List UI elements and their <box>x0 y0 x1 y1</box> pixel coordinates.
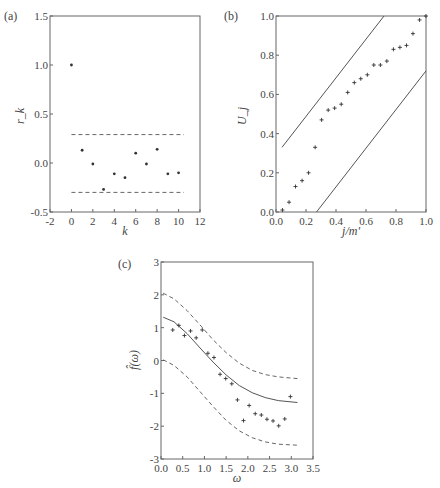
data-point <box>212 356 216 360</box>
data-point <box>365 73 369 77</box>
y-tick-label: -1 <box>150 387 159 399</box>
data-point <box>320 118 324 122</box>
y-tick-label: 1.5 <box>34 10 48 22</box>
data-point <box>391 47 395 51</box>
y-tick-label: 1.0 <box>34 59 48 71</box>
panel-b: (b)0.00.20.40.60.81.00.00.20.40.60.81.0j… <box>224 9 433 238</box>
data-point <box>346 90 350 94</box>
data-point <box>333 106 337 110</box>
data-point <box>70 64 73 67</box>
y-tick-label: 1.0 <box>260 10 274 22</box>
data-point <box>280 208 284 212</box>
data-point <box>247 403 251 407</box>
data-point <box>283 417 287 421</box>
data-point <box>145 163 148 166</box>
data-point <box>378 63 382 67</box>
y-tick-label: 2 <box>154 289 160 301</box>
data-point <box>230 382 234 386</box>
x-axis-label: j/m' <box>340 224 360 238</box>
data-point <box>265 417 269 421</box>
data-point <box>405 43 409 47</box>
x-tick-label: 0.8 <box>389 215 403 227</box>
data-point <box>200 328 204 332</box>
data-point <box>411 32 415 36</box>
x-tick-label: 3.5 <box>306 462 320 474</box>
ks-bound-line <box>282 16 384 147</box>
y-tick-label: 1 <box>154 322 160 334</box>
data-point <box>418 18 422 22</box>
x-tick-label: 10 <box>173 215 185 227</box>
x-tick-label: 8 <box>154 215 160 227</box>
data-point <box>81 149 84 152</box>
plot-frame <box>276 16 426 212</box>
x-tick-label: 3.0 <box>284 462 298 474</box>
y-tick-label: 0 <box>154 355 160 367</box>
x-tick-label: 1.0 <box>198 462 212 474</box>
data-point <box>294 185 298 189</box>
x-tick-label: 2.5 <box>263 462 277 474</box>
data-point <box>194 336 198 340</box>
panel-label: (c) <box>118 257 131 271</box>
data-point <box>166 172 169 175</box>
data-point <box>253 412 257 416</box>
data-point <box>242 419 246 423</box>
data-point <box>287 200 291 204</box>
data-point <box>182 334 186 338</box>
data-point <box>134 152 137 155</box>
y-tick-label: 3 <box>154 256 160 268</box>
y-tick-label: -3 <box>150 453 160 465</box>
data-point <box>326 108 330 112</box>
plot-frame <box>50 16 200 212</box>
x-axis-label: k <box>122 224 128 238</box>
y-tick-label: 0.0 <box>34 157 48 169</box>
x-tick-label: 1.0 <box>419 215 433 227</box>
data-point <box>271 419 275 423</box>
y-tick-label: -0.5 <box>31 206 49 218</box>
data-point <box>385 59 389 63</box>
data-point <box>218 372 222 376</box>
x-tick-label: 6 <box>133 215 139 227</box>
ks-bound-line <box>317 71 427 212</box>
data-point <box>124 176 127 179</box>
x-tick-label: 0 <box>69 215 75 227</box>
y-tick-label: 0.0 <box>260 206 274 218</box>
data-point <box>339 102 343 106</box>
panel-label: (a) <box>4 9 17 23</box>
data-point <box>156 148 159 151</box>
data-point <box>224 377 228 381</box>
data-point <box>177 171 180 174</box>
data-point <box>424 14 428 18</box>
y-tick-label: 0.6 <box>260 88 274 100</box>
y-tick-label: 0.8 <box>260 49 274 61</box>
y-axis-label: r_k <box>13 107 27 124</box>
x-tick-label: 0.2 <box>299 215 313 227</box>
data-point <box>300 179 304 183</box>
data-point <box>259 413 263 417</box>
y-tick-label: 0.2 <box>260 167 274 179</box>
y-axis-label: f̂(ω) <box>126 350 141 370</box>
x-tick-label: 2.0 <box>241 462 255 474</box>
data-point <box>91 163 94 166</box>
data-point <box>113 172 116 175</box>
data-point <box>235 398 239 402</box>
y-tick-label: -2 <box>150 420 159 432</box>
figure: (a)-2024681012-0.50.00.51.01.5kr_k (b)0.… <box>0 0 440 488</box>
data-point <box>372 63 376 67</box>
x-tick-label: 0.6 <box>359 215 373 227</box>
lower-band-curve <box>163 360 297 445</box>
y-tick-label: 0.4 <box>260 128 274 140</box>
panel-label: (b) <box>224 9 238 23</box>
fitted-curve <box>163 317 297 402</box>
x-tick-label: 1.5 <box>219 462 233 474</box>
data-point <box>307 171 311 175</box>
plot-frame <box>161 262 313 459</box>
panel-a: (a)-2024681012-0.50.00.51.01.5kr_k <box>4 9 206 238</box>
x-tick-label: 0.5 <box>176 462 190 474</box>
data-point <box>288 395 292 399</box>
data-point <box>359 77 363 81</box>
data-point <box>352 81 356 85</box>
y-axis-label: U_j <box>235 106 249 125</box>
data-point <box>102 188 105 191</box>
data-point <box>277 424 281 428</box>
data-point <box>171 328 175 332</box>
